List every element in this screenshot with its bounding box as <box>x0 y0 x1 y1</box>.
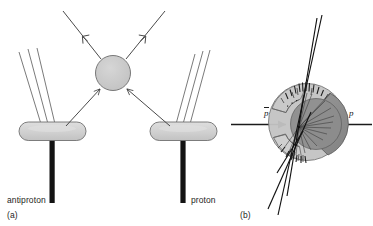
physics-figure <box>0 0 373 226</box>
panel-a-caption: (a) <box>7 211 18 220</box>
antiproton-pill-highlight <box>28 125 76 132</box>
proton-beam-stem <box>180 136 185 203</box>
proton-pill-highlight <box>159 125 207 132</box>
proton-label: proton <box>191 196 216 205</box>
event-vertex <box>298 126 300 128</box>
antiproton-label: antiproton <box>7 196 46 205</box>
interaction-blob <box>96 56 131 91</box>
proton-beam-label: p <box>349 108 354 118</box>
panel-b-caption: (b) <box>240 211 251 220</box>
antiproton-beam-label-text: p <box>264 108 269 118</box>
antiproton-beam-label: p <box>264 108 269 118</box>
antiproton-beam-stem <box>50 136 55 203</box>
